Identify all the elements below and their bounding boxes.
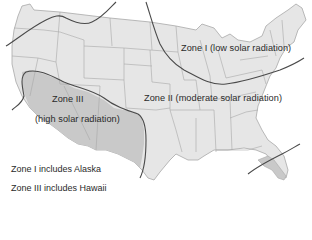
note-zone-1-alaska: Zone I includes Alaska [11,164,101,174]
note-zone-3-hawaii: Zone III includes Hawaii [11,183,107,193]
zone-3-label-line2: (high solar radiation) [35,114,120,124]
zone-3-label-line1: Zone III [52,94,84,104]
zone-1-label: Zone I (low solar radiation) [181,43,291,53]
zone-2-label: Zone II (moderate solar radiation) [144,93,282,103]
